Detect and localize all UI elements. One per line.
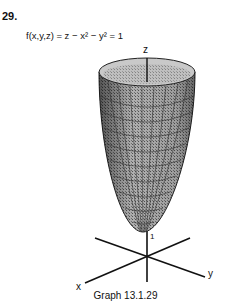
z-axis-label: z: [143, 44, 148, 55]
x-axis-line: [85, 238, 190, 283]
vertex-label: 1: [150, 232, 154, 241]
graph-caption: Graph 13.1.29: [0, 290, 233, 301]
paraboloid-graph: [0, 0, 233, 306]
y-axis-label: y: [208, 268, 213, 279]
